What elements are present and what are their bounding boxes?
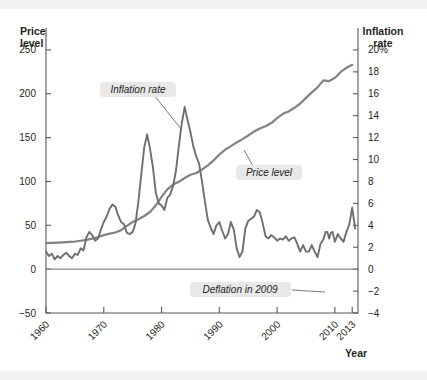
x-axis-title: Year xyxy=(345,347,367,359)
chart-figure: Price level Inflation rate Year 25020015… xyxy=(0,0,427,380)
x-tick-label: 2000 xyxy=(259,318,283,342)
right-tick-label: 16 xyxy=(368,88,380,99)
chart-canvas: Price level Inflation rate Year 25020015… xyxy=(0,0,427,380)
right-tick-label: 8 xyxy=(368,176,374,187)
x-tick-label: 2013 xyxy=(334,318,358,342)
deflation-callout-label: Deflation in 2009 xyxy=(202,284,277,295)
deflation-callout: Deflation in 2009 xyxy=(190,282,291,297)
right-tick-label: 12 xyxy=(368,132,380,143)
x-axis-tick-marks xyxy=(46,307,352,313)
left-tick-label: 50 xyxy=(25,220,37,231)
right-axis-tick-marks xyxy=(353,50,358,313)
right-tick-label: 4 xyxy=(368,220,374,231)
left-tick-label: 0 xyxy=(30,264,36,275)
price-level-callout: Price level xyxy=(236,165,302,180)
price-level-leader-line xyxy=(244,150,253,166)
left-axis-tick-labels: 250200150100500−50 xyxy=(19,44,36,318)
x-axis-tick-labels: 1960197019801990200020102013 xyxy=(28,318,358,342)
left-axis-tick-marks xyxy=(46,50,51,313)
right-tick-label: 10 xyxy=(368,154,380,165)
deflation-leader-line xyxy=(292,290,325,292)
right-axis-tick-labels: 20%181614121086420−2−4 xyxy=(368,44,388,318)
right-axis-title-line1: Inflation xyxy=(363,25,404,37)
right-tick-label: −2 xyxy=(368,286,380,297)
left-tick-label: 200 xyxy=(19,88,36,99)
right-tick-label: 6 xyxy=(368,198,374,209)
left-tick-label: 100 xyxy=(19,176,36,187)
right-tick-label: −4 xyxy=(368,308,380,319)
right-tick-label: 18 xyxy=(368,66,380,77)
x-tick-label: 1970 xyxy=(86,318,110,342)
x-tick-label: 1990 xyxy=(201,318,225,342)
x-tick-label: 1980 xyxy=(143,318,167,342)
left-tick-label: 150 xyxy=(19,132,36,143)
series-price-level xyxy=(46,65,352,243)
x-tick-label: 1960 xyxy=(28,318,52,342)
inflation-rate-callout: Inflation rate xyxy=(100,82,176,97)
series-inflation-rate xyxy=(46,107,355,259)
left-axis-title-line1: Price xyxy=(20,25,46,37)
inflation-rate-leader-line xyxy=(154,95,181,129)
right-tick-label: 20% xyxy=(368,44,388,55)
right-tick-label: 0 xyxy=(368,264,374,275)
inflation-rate-callout-label: Inflation rate xyxy=(110,84,165,95)
price-level-callout-label: Price level xyxy=(246,167,293,178)
right-tick-label: 2 xyxy=(368,242,374,253)
left-tick-label: −50 xyxy=(19,308,36,319)
right-tick-label: 14 xyxy=(368,110,380,121)
left-tick-label: 250 xyxy=(19,44,36,55)
